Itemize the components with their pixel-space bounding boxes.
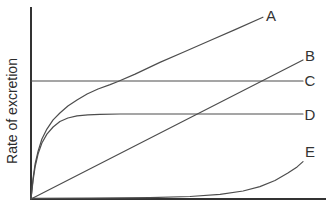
excretion-rate-chart: Rate of excretion A B C D E — [0, 0, 326, 213]
curve-label-c: C — [305, 73, 316, 88]
curve-e — [31, 162, 303, 199]
y-axis-label: Rate of excretion — [5, 58, 19, 164]
curve-label-b: B — [305, 48, 315, 63]
curve-label-d: D — [305, 107, 316, 122]
curve-label-e: E — [305, 144, 315, 159]
curves-group — [31, 17, 303, 199]
curve-a — [31, 17, 263, 199]
plot-svg — [0, 0, 326, 213]
curve-label-a: A — [266, 8, 276, 23]
